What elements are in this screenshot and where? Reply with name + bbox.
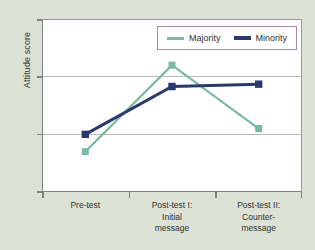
legend-label-minority: Minority: [256, 33, 288, 43]
x-axis-tick-mark: [215, 192, 217, 198]
x-axis-tick-mark: [301, 192, 303, 198]
x-axis-tick-label-post-test-2: Post-test II: Counter- message: [215, 200, 302, 235]
x-axis-tick-label-post-test-1: Post-test I: Initial message: [129, 200, 216, 235]
x-axis-tick-label-pre-test: Pre-test: [42, 200, 129, 212]
y-axis-title: Attitude score: [22, 0, 38, 120]
legend-entry-minority: Minority: [234, 33, 288, 43]
legend-label-majority: Majority: [189, 33, 221, 43]
gridline-4: [43, 76, 301, 77]
legend-swatch-minority: [234, 36, 251, 40]
chart-figure: Attitude score 5 4 3 2 Pre-test Post-tes…: [0, 0, 315, 250]
legend-entry-majority: Majority: [167, 33, 221, 43]
x-axis-tick-mark: [42, 192, 44, 198]
legend-swatch-majority: [167, 37, 184, 40]
x-axis-tick-mark: [129, 192, 131, 198]
gridline-3: [43, 134, 301, 135]
chart-legend: Majority Minority: [157, 26, 297, 50]
